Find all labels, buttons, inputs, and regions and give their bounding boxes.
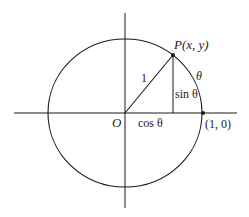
- unit-point-dot: [201, 111, 205, 115]
- radius-line: [125, 55, 173, 113]
- radius-label: 1: [141, 72, 147, 84]
- origin-label: O: [112, 116, 121, 129]
- point-p-label: P(x, y): [174, 38, 209, 51]
- unit-circle-diagram: [0, 0, 249, 217]
- arc-angle-label: θ: [196, 70, 202, 82]
- cosine-label: cos θ: [138, 117, 163, 129]
- point-p-dot: [171, 53, 175, 57]
- unit-point-label: (1, 0): [205, 118, 231, 130]
- sine-label: sin θ: [175, 88, 198, 100]
